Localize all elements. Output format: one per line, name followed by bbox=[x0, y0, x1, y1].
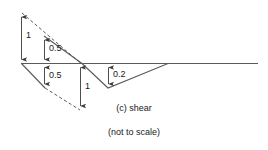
shear-lower-solid-segment bbox=[22, 64, 46, 89]
dimension-label-half-top: 0.5 bbox=[49, 44, 62, 53]
figure-caption-note: (not to scale) bbox=[0, 128, 268, 137]
dimension-label-half-bottom: 0.5 bbox=[49, 71, 62, 80]
figure-caption: (c) shear bbox=[0, 104, 268, 113]
shear-diagram-figure: 1 0.5 0.5 1 0.2 (c) shear (not to scale) bbox=[0, 0, 268, 150]
dimension-label-one-bottom: 1 bbox=[85, 82, 90, 91]
dimension-label-two-tenths: 0.2 bbox=[113, 70, 126, 79]
dimension-label-one-top: 1 bbox=[26, 31, 31, 40]
